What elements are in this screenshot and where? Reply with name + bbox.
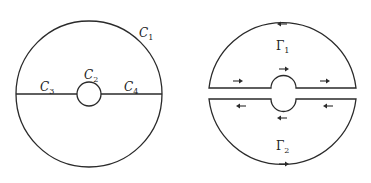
label-gamma-1: Γ1 bbox=[276, 39, 289, 55]
label-c1: C1 bbox=[139, 26, 153, 42]
arrow-right-icon bbox=[279, 162, 289, 167]
arrow-right-icon bbox=[279, 67, 289, 72]
label-c2: C2 bbox=[84, 68, 98, 84]
arrow-left-icon bbox=[277, 116, 287, 121]
arrow-left-icon bbox=[236, 104, 246, 109]
arrow-left-icon bbox=[323, 104, 333, 109]
arrow-right-icon bbox=[320, 79, 330, 84]
label-c4: C4 bbox=[124, 80, 138, 96]
contour-gamma-2 bbox=[209, 99, 356, 164]
contour-diagram: C1 C2 C3 C4 Γ1 Γ2 bbox=[0, 0, 371, 183]
label-c3: C3 bbox=[40, 80, 54, 96]
right-figure: Γ1 Γ2 bbox=[209, 22, 356, 167]
contour-gamma-1 bbox=[209, 23, 356, 88]
inner-circle-c2 bbox=[77, 82, 101, 106]
arrow-right-icon bbox=[233, 79, 243, 84]
label-gamma-2: Γ2 bbox=[276, 139, 289, 155]
left-figure: C1 C2 C3 C4 bbox=[16, 21, 162, 167]
